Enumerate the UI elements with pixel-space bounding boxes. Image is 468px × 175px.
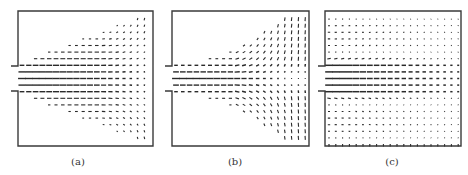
velocity-vector — [424, 111, 425, 112]
velocity-vector — [144, 111, 145, 112]
velocity-vector — [235, 58, 238, 59]
velocity-vector — [403, 98, 405, 99]
velocity-vector — [123, 45, 125, 46]
velocity-vector — [130, 52, 132, 53]
velocity-vector — [284, 64, 285, 66]
velocity-vector — [116, 45, 119, 46]
velocity-vector — [437, 124, 438, 125]
velocity-vector — [116, 32, 118, 33]
velocity-vector — [257, 51, 259, 53]
velocity-vector — [263, 64, 265, 66]
velocity-vector — [250, 111, 252, 113]
velocity-vector — [242, 72, 246, 73]
velocity-vector — [123, 98, 126, 99]
velocity-vector — [278, 24, 279, 27]
velocity-vector — [424, 138, 425, 139]
velocity-vector — [327, 98, 330, 99]
velocity-vector — [123, 131, 124, 132]
panel-c-recirculating-flow — [318, 11, 461, 147]
velocity-vector — [410, 98, 412, 99]
velocity-vector — [250, 51, 252, 53]
velocity-vector — [410, 118, 411, 119]
velocity-vector — [410, 45, 411, 46]
velocity-vector — [451, 58, 452, 59]
velocity-vector — [438, 131, 439, 132]
velocity-vector — [444, 111, 445, 112]
velocity-vector — [264, 31, 265, 34]
velocity-vector — [410, 19, 411, 20]
velocity-vector — [444, 32, 445, 33]
velocity-vector — [263, 71, 266, 72]
velocity-vector — [424, 25, 425, 26]
velocity-vector — [410, 131, 411, 132]
velocity-vector — [341, 98, 344, 99]
velocity-vector — [242, 91, 246, 92]
velocity-vector — [257, 44, 259, 46]
velocity-vector — [144, 91, 145, 92]
velocity-vector — [389, 98, 391, 99]
velocity-vector — [424, 124, 425, 125]
velocity-vector — [417, 105, 418, 106]
velocity-vector — [123, 105, 126, 106]
velocity-vector — [137, 25, 138, 27]
velocity-vector — [263, 85, 266, 86]
velocity-vector — [270, 103, 272, 106]
velocity-vector — [235, 98, 238, 99]
velocity-vector — [437, 39, 438, 40]
velocity-vector — [438, 25, 439, 26]
velocity-vector — [458, 98, 459, 99]
velocity-vector — [417, 124, 418, 125]
velocity-vector — [417, 39, 418, 40]
velocity-vector — [144, 45, 145, 46]
velocity-vector — [430, 98, 431, 99]
velocity-vector — [437, 98, 438, 99]
velocity-vector — [444, 118, 445, 119]
velocity-vector — [277, 64, 278, 66]
velocity-vector — [417, 58, 418, 59]
velocity-vector — [123, 124, 125, 125]
velocity-vector — [270, 97, 272, 100]
velocity-vector — [270, 71, 272, 72]
velocity-vector — [263, 91, 265, 93]
velocity-vector — [284, 123, 285, 126]
velocity-vector — [144, 58, 145, 59]
velocity-vector — [348, 58, 351, 59]
velocity-vector — [130, 32, 131, 33]
velocity-vector — [271, 117, 272, 120]
velocity-vector — [291, 64, 292, 67]
velocity-vector — [277, 110, 278, 113]
velocity-vector — [284, 85, 285, 86]
velocity-vector — [256, 58, 259, 60]
velocity-vector — [362, 58, 365, 59]
velocity-vector — [242, 58, 245, 60]
velocity-vector — [116, 118, 118, 119]
velocity-vector — [417, 98, 418, 99]
velocity-vector — [341, 58, 344, 59]
velocity-vector — [424, 118, 425, 119]
velocity-vector — [431, 32, 432, 33]
velocity-vector — [410, 58, 412, 59]
velocity-vector — [243, 45, 245, 47]
velocity-vector — [424, 98, 425, 99]
velocity-vector — [144, 98, 145, 99]
velocity-vector — [430, 58, 431, 59]
velocity-vector — [137, 111, 139, 112]
velocity-vector — [271, 37, 272, 40]
velocity-vector — [123, 52, 126, 53]
velocity-vector — [284, 37, 285, 40]
velocity-vector — [417, 131, 418, 132]
velocity-vector — [437, 58, 438, 59]
velocity-vector — [263, 51, 265, 54]
velocity-vector — [284, 71, 285, 72]
velocity-vector — [249, 58, 252, 60]
vector-field-canvas — [0, 0, 468, 175]
velocity-vector — [264, 123, 265, 126]
velocity-vector — [144, 137, 145, 139]
velocity-vector — [284, 103, 285, 106]
velocity-vector — [375, 58, 377, 59]
panel-b-caption: (b) — [228, 156, 242, 167]
velocity-vector — [284, 116, 285, 119]
velocity-vector — [284, 50, 285, 53]
velocity-vector — [284, 97, 285, 100]
velocity-vector — [417, 25, 418, 26]
